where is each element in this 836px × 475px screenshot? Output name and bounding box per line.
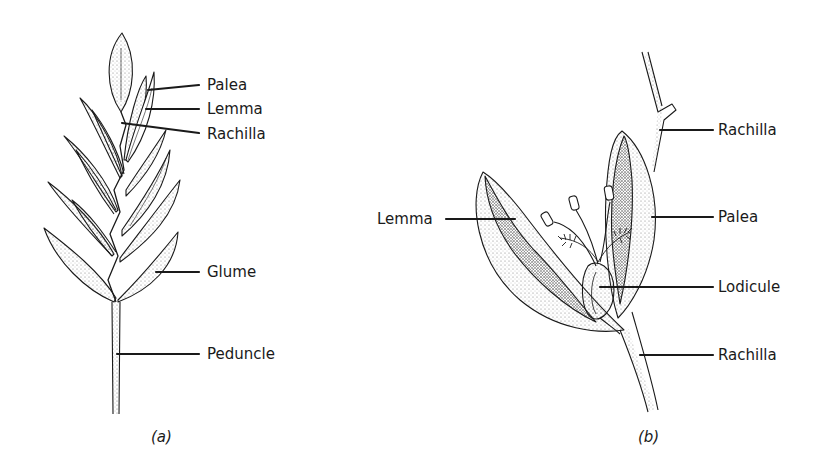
peduncle-stem	[112, 302, 120, 414]
upper-rachilla-stem	[642, 52, 676, 172]
diagram-canvas: Palea Lemma Rachilla Glume Peduncle (a) …	[0, 0, 836, 475]
label-peduncle-a: Peduncle	[207, 345, 275, 363]
label-rachilla-a: Rachilla	[207, 125, 266, 143]
label-lemma-a: Lemma	[207, 100, 263, 118]
label-lemma-b: Lemma	[377, 210, 433, 228]
leader-palea-a	[148, 85, 199, 90]
spikelet-drawing	[44, 33, 180, 414]
label-rachilla-bottom-b: Rachilla	[718, 346, 777, 364]
label-palea-b: Palea	[718, 208, 758, 226]
label-rachilla-top-b: Rachilla	[718, 121, 777, 139]
label-glume-a: Glume	[207, 263, 256, 281]
label-lodicule-b: Lodicule	[718, 278, 780, 296]
floret-drawing	[476, 52, 676, 412]
lower-rachilla-stem	[620, 312, 658, 412]
lodicule-organ	[582, 263, 614, 319]
caption-b: (b)	[638, 428, 659, 446]
label-palea-a: Palea	[207, 76, 247, 94]
caption-a: (a)	[151, 428, 172, 446]
right-glume	[118, 232, 178, 302]
